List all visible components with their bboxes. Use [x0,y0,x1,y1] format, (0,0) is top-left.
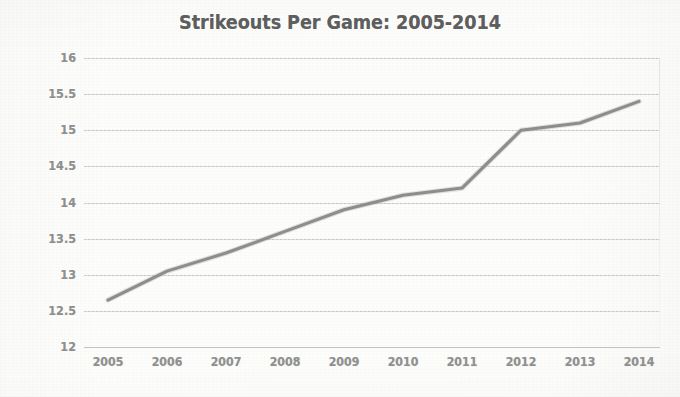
x-tick-label-2013: 2013 [552,355,607,369]
y-tick-label-13: 13 [36,267,76,282]
y-tick-label-13-5: 13.5 [36,231,76,246]
plot-area [84,58,660,347]
x-tick-label-2012: 2012 [493,355,548,369]
y-tick-label-15-5: 15.5 [36,86,76,101]
x-tick-label-2014: 2014 [611,355,666,369]
y-tick-label-12-5: 12.5 [36,303,76,318]
y-tick-label-14: 14 [36,195,76,210]
x-axis-tick-labels: 2005200620072008200920102011201220132014 [84,355,660,375]
x-tick-label-2007: 2007 [198,355,253,369]
gridline-12 [84,347,660,348]
y-tick-label-15: 15 [36,122,76,137]
x-tick-label-2006: 2006 [139,355,194,369]
y-tick-label-12: 12 [36,339,76,354]
chart-figure: Strikeouts Per Game: 2005-2014 1615.5151… [0,0,680,397]
x-tick-label-2009: 2009 [316,355,371,369]
series-line-glow [108,101,639,300]
x-tick-label-2008: 2008 [257,355,312,369]
x-tick-label-2010: 2010 [375,355,430,369]
chart-title: Strikeouts Per Game: 2005-2014 [24,11,656,33]
y-tick-label-16: 16 [36,50,76,65]
x-tick-label-2005: 2005 [80,355,135,369]
x-tick-label-2011: 2011 [434,355,489,369]
y-axis-tick-labels: 1615.51514.51413.51312.512 [22,58,76,347]
line-series-chart [84,58,660,347]
y-tick-label-14-5: 14.5 [36,158,76,173]
